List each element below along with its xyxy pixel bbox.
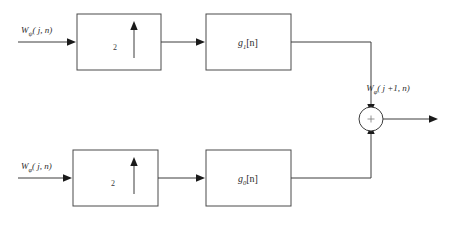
upsampler-block-bottom[interactable]	[73, 150, 158, 206]
filter-bracket-bottom: [n]	[246, 173, 258, 184]
bottom-mid-wire	[158, 174, 205, 182]
bottom-input-wire	[18, 174, 72, 182]
upsampler-factor-bottom: 2	[111, 179, 115, 188]
input-label-bottom: Wφ( j, n)	[21, 161, 52, 173]
upsampler-block-top[interactable]	[77, 14, 161, 70]
output-wire	[383, 115, 438, 123]
output-label: Wφ( j +1, n)	[366, 83, 410, 95]
input-args-bottom: ( j, n)	[32, 161, 52, 171]
top-input-wire	[18, 38, 76, 46]
top-mid-wire	[161, 38, 205, 46]
signal-flow-diagram: 2 g1[n] Wψ( j, n)	[0, 0, 451, 227]
filter-label-top: g1[n]	[238, 37, 258, 50]
diagram-canvas: 2 g1[n] Wψ( j, n)	[0, 0, 451, 227]
filter-label-bottom: g0[n]	[238, 173, 258, 186]
bottom-output-route	[291, 125, 375, 178]
input-label-top: Wψ( j, n)	[21, 25, 52, 37]
output-args: ( j +1, n)	[377, 83, 410, 93]
input-args-top: ( j, n)	[33, 25, 53, 35]
upsampler-factor-top: 2	[113, 43, 117, 52]
filter-bracket-top: [n]	[246, 37, 258, 48]
top-output-route	[291, 42, 375, 113]
